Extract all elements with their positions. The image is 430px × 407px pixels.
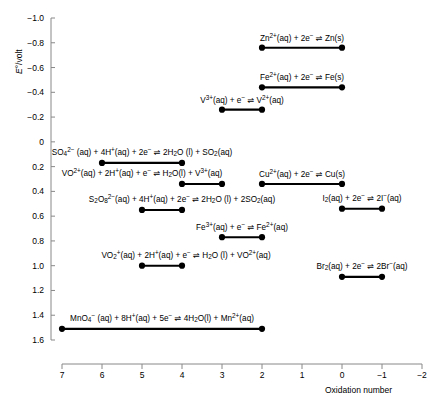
y-tick-label: −0.8 [14,38,44,48]
segment-endpoint-marker [59,326,65,332]
y-tick-label: −0.2 [14,112,44,122]
segment-endpoint-marker [179,263,185,269]
y-tick-label: 0.4 [14,186,44,196]
y-tick-label: −0.4 [14,87,44,97]
y-tick-label: 0.2 [14,162,44,172]
y-tick-label: 0.6 [14,211,44,221]
segment-endpoint-marker [259,181,265,187]
y-tick-label: 1.2 [14,285,44,295]
segment-endpoint-marker [259,326,265,332]
reaction-label: Fe3+(aq) + e− ⇌ Fe2+(aq) [196,221,288,234]
reaction-label: S2O82−(aq) + 4H+(aq) + 2e− ⇌ 2H2O (l) + … [89,192,275,206]
x-axis-title: Oxidation number [325,385,392,395]
y-tick-label: 1.6 [14,335,44,345]
segment-endpoint-marker [139,207,145,213]
segment-endpoint-marker [339,181,345,187]
x-tick-label: 3 [210,370,234,380]
segment-endpoint-marker [259,234,265,240]
reaction-label: Zn2+(aq) + 2e− ⇌ Zn(s) [260,31,344,44]
x-tick-label: −1 [370,370,394,380]
x-tick-label: −2 [410,370,430,380]
segment-endpoint-marker [179,181,185,187]
segment-endpoint-marker [379,274,385,280]
y-tick-label: 1.0 [14,261,44,271]
y-tick-label: −0.6 [14,63,44,73]
reaction-label: I2(aq) + 2e− ⇌ 2I−(aq) [322,191,401,205]
segment-endpoint-marker [259,107,265,113]
x-tick-label: 0 [330,370,354,380]
reaction-label: Cu2+(aq) + 2e− ⇌ Cu(s) [259,167,345,180]
redox-potential-chart: E°/volt −1.0−0.8−0.6−0.4−0.200.20.40.60.… [0,0,430,407]
reaction-label: VO2+(aq) + 2H+(aq) + e− ⇌ H2O (l) + VO2+… [101,248,270,262]
y-tick-label: 0.8 [14,236,44,246]
x-tick-label: 7 [50,370,74,380]
segment-endpoint-marker [379,206,385,212]
x-tick-label: 6 [90,370,114,380]
segment-endpoint-marker [259,84,265,90]
reaction-label: MnO4− (aq) + 8H+(aq) + 5e− ⇌ 4H2O(l) + M… [70,311,254,325]
segment-endpoint-marker [339,45,345,51]
segment-endpoint-marker [139,263,145,269]
segment-endpoint-marker [179,207,185,213]
y-tick-label: 0 [14,137,44,147]
x-tick-label: 1 [290,370,314,380]
segment-endpoint-marker [339,84,345,90]
segment-endpoint-marker [259,45,265,51]
x-tick-label: 4 [170,370,194,380]
segment-endpoint-marker [339,206,345,212]
reaction-label: V3+(aq) + e− ⇌ V2+(aq) [200,93,284,106]
segment-endpoint-marker [219,107,225,113]
reaction-label: VO2+(aq) + 2H+(aq) + e− ⇌ H2O(l) + V3+(a… [62,166,223,180]
y-tick-label: 1.4 [14,310,44,320]
segment-endpoint-marker [339,274,345,280]
segment-endpoint-marker [219,234,225,240]
x-tick-label: 5 [130,370,154,380]
reaction-label: Fe2+(aq) + 2e− ⇌ Fe(s) [260,71,344,84]
x-tick-label: 2 [250,370,274,380]
segment-endpoint-marker [219,181,225,187]
reaction-label: SO42− (aq) + 4H+(aq) + 2e− ⇌ 2H2O (l) + … [52,145,232,159]
segment-endpoint-marker [179,160,185,166]
y-tick-label: −1.0 [14,13,44,23]
reaction-label: Br2(aq) + 2e− ⇌ 2Br−(aq) [317,259,408,273]
segment-endpoint-marker [99,160,105,166]
